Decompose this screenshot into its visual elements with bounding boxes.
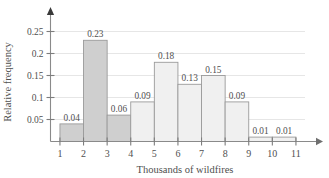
- x-tick-label: 1: [57, 148, 62, 159]
- y-tick-label: 0.2: [32, 49, 44, 59]
- x-tick-label: 7: [199, 148, 204, 159]
- y-axis-arrow-icon: [47, 7, 54, 15]
- y-tick-label: 0.25: [27, 27, 44, 37]
- bar-value-label: 0.01: [276, 126, 293, 136]
- histogram-bar: [178, 84, 202, 141]
- bar-value-label: 0.09: [229, 91, 246, 101]
- bar-value-label: 0.18: [158, 51, 175, 61]
- y-tick-label: 0.1: [32, 93, 44, 103]
- x-tick-label: 4: [128, 148, 133, 159]
- histogram-chart: 0.050.10.150.20.25 1234567891011 0.040.2…: [0, 0, 329, 178]
- x-axis-title: Thousands of wildfires: [137, 164, 234, 175]
- bar-value-label: 0.04: [64, 113, 81, 123]
- histogram-svg: 0.050.10.150.20.25 1234567891011 0.040.2…: [0, 0, 329, 178]
- x-tick-label: 2: [81, 148, 86, 159]
- x-axis-arrow-icon: [316, 138, 323, 145]
- x-tick-label: 8: [223, 148, 228, 159]
- y-tick-label: 0.05: [27, 115, 44, 125]
- bar-value-label: 0.13: [182, 73, 199, 83]
- x-tick-label: 5: [152, 148, 157, 159]
- x-tick-label: 3: [105, 148, 110, 159]
- bar-value-label: 0.15: [205, 65, 222, 75]
- histogram-bar: [154, 62, 178, 141]
- bar-value-label: 0.01: [252, 126, 269, 136]
- histogram-bar: [202, 76, 226, 142]
- histogram-bar: [84, 40, 108, 141]
- x-tick-label: 11: [291, 148, 301, 159]
- y-axis-title: Relative frequency: [2, 41, 13, 121]
- bar-value-label: 0.09: [134, 91, 151, 101]
- x-tick-label: 9: [246, 148, 251, 159]
- histogram-bar: [107, 115, 131, 141]
- histogram-bar: [60, 124, 84, 142]
- histogram-bar: [131, 102, 155, 142]
- y-tick-label: 0.15: [27, 71, 44, 81]
- bar-value-label: 0.23: [87, 29, 104, 39]
- histogram-bar: [225, 102, 249, 142]
- histogram-bar: [249, 137, 273, 141]
- x-tick-label: 10: [267, 148, 277, 159]
- x-tick-label: 6: [175, 148, 180, 159]
- histogram-bar: [272, 137, 296, 141]
- bar-value-label: 0.06: [111, 104, 128, 114]
